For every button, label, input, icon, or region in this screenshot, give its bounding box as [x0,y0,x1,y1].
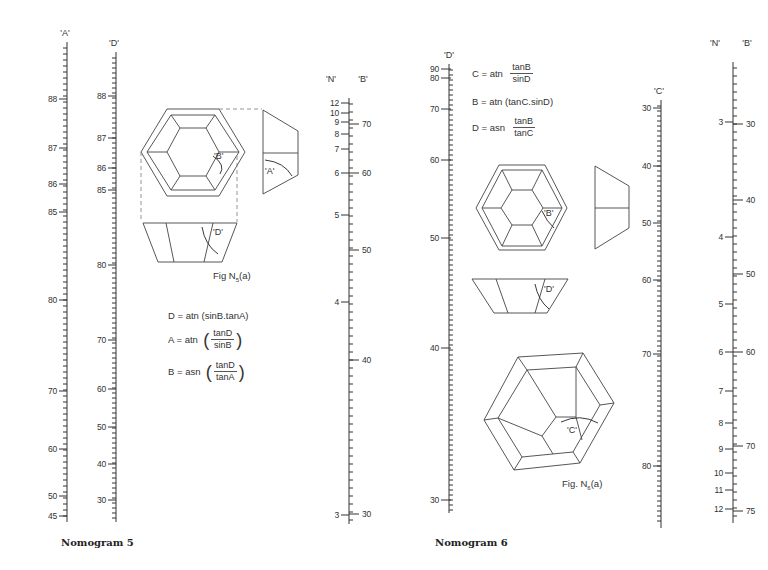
right-paren: ) [239,363,245,381]
left-paren: ( [206,363,212,381]
n5-formula-a: A = atn ( tanDsinB ) [168,328,242,351]
n6-n-tick-label: 9 [718,444,723,454]
n5-a-tick-label: 85 [48,207,57,217]
n5-d-axis-label: 'D' [109,38,119,48]
n6-n-tick-label: 4 [718,232,723,242]
n6-c-tick-label: 80 [642,461,651,471]
n6-n-tick-label: 12 [714,504,723,514]
denominator: tanC [512,128,535,139]
formula-lhs: B = atn [472,96,502,107]
n5-d-tick-label: 40 [97,459,106,469]
n6-figure-caption-suffix: (a) [591,478,603,489]
n5-d-tick-label: 85 [97,185,106,195]
nomogram-canvas [0,0,768,570]
n6-b-tick-label: 60 [746,347,755,357]
fraction: tanDsinB [211,328,234,351]
n5-formula-b: B = asn ( tanDtanA ) [168,360,245,383]
numerator: tanB [513,116,536,128]
n5-n-tick-label: 5 [334,210,339,220]
n5-a-tick-label: 60 [48,444,57,454]
denominator: sinD [510,74,532,85]
n5-d-tick-label: 60 [97,384,106,394]
n5-a-tick-label: 50 [48,491,57,501]
right-paren: ) [236,331,242,349]
n6-d-tick-label: 30 [430,495,439,505]
n5-n-tick-label: 3 [334,510,339,520]
n5-b-tick-label: 60 [362,168,371,178]
n6-n-tick-label: 11 [715,485,723,495]
nomogram-6-caption: Nomogram 6 [435,537,508,548]
n5-d-tick-label: 50 [97,422,106,432]
n6-n-tick-label: 8 [718,418,723,428]
n6-figure-caption-text: Fig. N [562,478,587,489]
n5-n-tick-label: 7 [334,144,339,154]
n5-n-tick-label: 6 [334,168,339,178]
numerator: tanD [211,328,234,340]
nomogram-5-caption: Nomogram 5 [61,537,134,548]
n6-b-axis-label: 'B' [742,38,751,48]
n5-a-tick-label: 87 [48,143,57,153]
n6-angle-b-label: 'B' [544,208,553,218]
n6-d-tick-label: 70 [430,104,439,114]
n5-a-tick-label: 80 [48,295,57,305]
n6-b-tick-label: 75 [746,506,755,516]
n6-figure-caption: Fig. N6(a) [562,478,602,491]
n6-n-tick-label: 5 [718,299,723,309]
fraction: tanDtanA [214,360,237,383]
fraction: tanBtanC [512,116,535,139]
n5-b-axis-label: 'B' [358,74,367,84]
n6-b-tick-label: 50 [746,269,755,279]
formula-rhs: (sinB.tanA) [202,310,249,321]
n6-n-tick-label: 10 [714,468,723,478]
n6-d-tick-label: 50 [430,233,439,243]
n5-a-tick-label: 88 [48,94,57,104]
n6-b-tick-label: 40 [746,195,755,205]
n6-n-tick-label: 7 [718,386,723,396]
formula-lhs: C = atn [472,68,503,79]
denominator: tanA [214,372,237,383]
n5-b-tick-label: 70 [362,119,371,129]
n6-c-tick-label: 50 [642,218,651,228]
n6-c-axis-label: 'C' [654,86,664,96]
n5-b-tick-label: 30 [362,509,371,519]
n6-angle-c-label: 'C' [567,425,577,435]
n5-b-tick-label: 40 [362,355,371,365]
n6-formula-d: D = asn tanBtanC [472,116,537,139]
n6-formula-b: B = atn (tanC.sinD) [472,96,553,107]
n6-d-axis-label: 'D' [444,50,454,60]
numerator: tanB [510,62,533,74]
n5-n-axis-label: 'N' [326,74,336,84]
n5-angle-d-label: 'D' [213,227,223,237]
formula-lhs: D = asn [472,122,505,133]
n5-a-axis-label: 'A' [60,28,69,38]
n6-n-tick-label: 6 [718,347,723,357]
n5-figure-caption-text: Fig N [213,270,236,281]
n6-n-axis-label: 'N' [710,38,720,48]
n6-c-tick-label: 30 [642,103,651,113]
n5-d-tick-label: 30 [97,495,106,505]
n5-angle-b-label: 'B' [214,151,223,161]
n6-d-tick-label: 40 [430,343,439,353]
n6-b-tick-label: 70 [746,441,755,451]
n5-d-tick-label: 86 [97,163,106,173]
n5-d-tick-label: 87 [97,133,106,143]
n6-c-tick-label: 40 [642,161,651,171]
n5-figure-caption: Fig N5(a) [213,270,251,283]
n5-formula-d: D = atn (sinB.tanA) [168,310,249,321]
denominator: sinB [212,340,234,351]
n5-n-tick-label: 4 [334,297,339,307]
n5-hexagon-figure [141,109,298,262]
n5-d-tick-label: 80 [97,260,106,270]
scale-lines [59,42,743,528]
fraction: tanBsinD [510,62,533,85]
n5-angle-a-label: 'A' [265,166,274,176]
formula-rhs: (tanC.sinD) [505,96,553,107]
numerator: tanD [214,360,237,372]
n5-figure-caption-suffix: (a) [239,270,251,281]
n5-d-tick-label: 88 [97,91,106,101]
n5-a-tick-label: 86 [48,179,57,189]
n5-n-tick-label: 8 [334,129,339,139]
n6-c-tick-label: 60 [642,275,651,285]
formula-lhs: A = atn [168,334,198,345]
n5-a-tick-label: 70 [48,386,57,396]
